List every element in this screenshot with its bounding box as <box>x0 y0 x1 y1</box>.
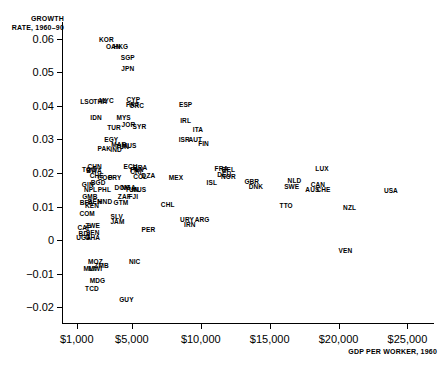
y-tick-label: −0.02 <box>26 301 54 313</box>
scatter-chart: GROWTH RATE, 1960–90 0.060.050.040.030.0… <box>0 0 443 368</box>
data-point-label: SGP <box>121 54 135 61</box>
data-point-label: HND <box>98 197 112 204</box>
data-point-label: IDN <box>90 113 102 120</box>
y-tick-mark <box>57 240 63 241</box>
data-point-label: CHL <box>161 200 175 207</box>
data-point-label: VEN <box>339 246 353 253</box>
x-tick-label: $10,000 <box>181 333 221 345</box>
data-point-label: CHE <box>316 186 330 193</box>
data-point-label: GTM <box>113 198 128 205</box>
data-point-label: PAK <box>98 144 112 151</box>
data-point-label: DNK <box>249 182 263 189</box>
x-tick-mark <box>132 323 133 329</box>
data-point-label: KOR <box>99 35 114 42</box>
data-point-label: NZL <box>343 204 356 211</box>
x-tick-mark <box>201 323 202 329</box>
data-point-label: NPL <box>84 186 97 193</box>
data-point-label: NOR <box>221 172 236 179</box>
y-tick-label: 0.02 <box>33 167 54 179</box>
y-tick-label: 0.05 <box>33 66 54 78</box>
data-point-label: FIN <box>198 140 209 147</box>
y-tick-mark <box>57 72 63 73</box>
y-tick-mark <box>57 139 63 140</box>
y-tick-mark <box>57 39 63 40</box>
data-point-label: USA <box>384 187 398 194</box>
data-point-label: SWE <box>284 182 299 189</box>
data-point-label: JAM <box>110 217 124 224</box>
data-point-label: MEX <box>169 174 183 181</box>
data-point-label: LSO <box>80 97 94 104</box>
data-point-label: HKG <box>113 43 128 50</box>
y-axis-title-text: GROWTH RATE, 1960–90 <box>12 15 64 31</box>
x-tick-mark <box>270 323 271 329</box>
data-point-label: LUX <box>315 164 328 171</box>
data-point-label: MDG <box>90 276 105 283</box>
y-tick-mark <box>57 106 63 107</box>
data-point-label: JPN <box>121 65 134 72</box>
data-point-label: FJI <box>128 192 138 199</box>
data-point-label: IRL <box>180 116 191 123</box>
data-point-label: MYC <box>99 96 114 103</box>
x-tick-mark <box>339 323 340 329</box>
y-tick-label: 0.04 <box>33 100 54 112</box>
y-tick-label: 0.01 <box>33 201 54 213</box>
y-tick-mark <box>57 307 63 308</box>
data-point-label: IRN <box>184 221 196 228</box>
x-tick-label: $5,000 <box>115 333 149 345</box>
data-point-label: TTO <box>280 201 293 208</box>
y-tick-label: 0.06 <box>33 33 54 45</box>
x-axis-title-text: GDP PER WORKER, 1960 <box>348 348 437 355</box>
data-point-label: COM <box>79 209 94 216</box>
data-point-label: PER <box>142 226 156 233</box>
y-axis-title: GROWTH RATE, 1960–90 <box>8 14 64 32</box>
data-point-label: GRC <box>129 101 144 108</box>
data-point-label: GHA <box>85 234 100 241</box>
x-tick-mark <box>407 323 408 329</box>
data-point-label: TCD <box>85 284 99 291</box>
data-point-label: ITA <box>193 125 203 132</box>
data-point-label: ESP <box>179 101 192 108</box>
data-point-label: MWI <box>89 264 103 271</box>
data-point-label: DZA <box>142 171 156 178</box>
data-point-label: GUY <box>119 295 133 302</box>
data-point-label: PRY <box>108 174 121 181</box>
data-point-label: MYS <box>116 113 130 120</box>
y-tick-mark <box>57 274 63 275</box>
data-point-label: SYR <box>133 123 147 130</box>
data-point-label: ARG <box>195 216 210 223</box>
x-tick-label: $20,000 <box>319 333 359 345</box>
data-point-label: ISL <box>207 179 217 186</box>
y-tick-mark <box>57 207 63 208</box>
x-tick-mark <box>77 323 78 329</box>
data-point-label: MUS <box>122 142 137 149</box>
x-tick-label: $25,000 <box>388 333 428 345</box>
data-point-label: IND <box>110 145 122 152</box>
data-point-label: NIC <box>129 257 141 264</box>
y-tick-label: −0.01 <box>26 268 54 280</box>
data-point-label: PHL <box>98 186 111 193</box>
plot-area: 0.060.050.040.030.020.010−0.01−0.02 $1,0… <box>62 22 434 324</box>
y-tick-label: 0.03 <box>33 133 54 145</box>
data-point-label: TUR <box>107 123 121 130</box>
x-axis-title: GDP PER WORKER, 1960 <box>348 348 437 355</box>
y-tick-label: 0 <box>48 234 54 246</box>
y-tick-mark <box>57 173 63 174</box>
data-point-label: KEN <box>85 201 99 208</box>
x-tick-label: $15,000 <box>250 333 290 345</box>
x-tick-label: $1,000 <box>60 333 94 345</box>
